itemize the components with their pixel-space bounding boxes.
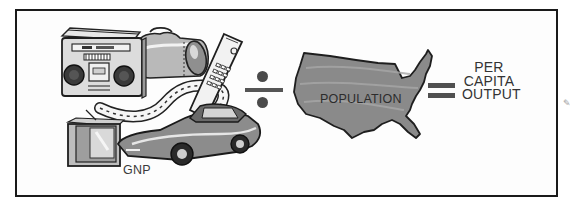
illustration-canvas <box>0 0 573 210</box>
duffel-bag-icon <box>136 28 209 78</box>
equals-top-bar <box>428 83 455 88</box>
equals-bottom-bar <box>428 93 455 98</box>
scan-speck: ✎ <box>563 98 571 108</box>
divide-top-dot <box>257 71 268 82</box>
gnp-label: GNP <box>123 164 151 177</box>
boombox-radio-icon <box>62 28 146 98</box>
per-capita-output-label: PER CAPITA OUTPUT <box>462 61 516 102</box>
divide-bar <box>245 88 283 92</box>
result-line-3: OUTPUT <box>462 88 516 102</box>
divide-bottom-dot <box>257 97 268 108</box>
population-label: POPULATION <box>320 93 402 106</box>
